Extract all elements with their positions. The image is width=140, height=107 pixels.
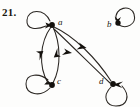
vertex-d[interactable]: [110, 81, 116, 87]
vertex-b[interactable]: [115, 20, 120, 25]
self-loop-d: [106, 86, 127, 106]
vertex-label-d: d: [99, 77, 104, 86]
arrowhead-edge-d-to-a-lower: [62, 48, 72, 55]
vertex-label-b: b: [107, 20, 112, 29]
edge-d-to-a-upper: [54, 27, 111, 81]
edge-a-to-c: [42, 27, 51, 83]
directed-graph-svg: [0, 0, 140, 107]
vertex-label-a: a: [58, 18, 63, 27]
arrowhead-edge-a-to-c: [36, 51, 43, 60]
self-loop-c: [26, 75, 50, 94]
vertex-label-c: c: [57, 77, 61, 86]
edge-d-to-a-lower: [54, 29, 110, 83]
arrowhead-edge-c-to-a: [54, 48, 61, 57]
vertex-a[interactable]: [49, 22, 55, 28]
figure-page: 21. a b c d: [0, 0, 140, 107]
vertex-c[interactable]: [49, 82, 55, 88]
